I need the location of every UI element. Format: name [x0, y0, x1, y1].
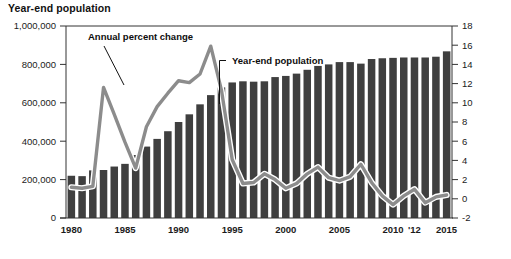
- annotation-label-annual-percent-change: Annual percent change: [88, 31, 193, 42]
- bar-1981: [78, 176, 86, 218]
- bar-1990: [175, 122, 183, 218]
- y-tick-label-left: 400,000: [22, 136, 56, 147]
- y-tick-label-left: 200,000: [22, 174, 56, 185]
- y-tick-label-right: 16: [462, 40, 473, 51]
- bar-2006: [346, 62, 354, 218]
- bar-1991: [186, 114, 194, 218]
- y-tick-label-left: 0: [51, 212, 56, 223]
- bar-1992: [196, 104, 204, 218]
- bar-2001: [293, 74, 301, 218]
- bar-2002: [304, 70, 312, 218]
- bar-1996: [239, 81, 247, 218]
- chart-container: Year-end population 0200,000400,000600,0…: [0, 0, 511, 259]
- x-tick-label-1980: 1980: [61, 224, 82, 235]
- y-tick-label-right: 4: [462, 155, 467, 166]
- y-tick-label-right: 2: [462, 174, 467, 185]
- x-tick-label-2000: 2000: [275, 224, 296, 235]
- x-tick-label-2005: 2005: [329, 224, 351, 235]
- y-tick-label-right: 8: [462, 116, 467, 127]
- y-tick-label-right: 10: [462, 97, 473, 108]
- bar-1983: [100, 170, 108, 218]
- bar-2004: [325, 64, 333, 218]
- bar-1987: [143, 147, 151, 218]
- y-tick-label-right: 0: [462, 193, 467, 204]
- x-tick-label-1985: 1985: [114, 224, 136, 235]
- x-tick-label-'12: '12: [408, 224, 421, 235]
- x-tick-label-1995: 1995: [222, 224, 244, 235]
- bar-1999: [271, 77, 279, 218]
- y-tick-label-right: 14: [462, 59, 473, 70]
- x-tick-label-2010: 2010: [382, 224, 403, 235]
- bar-1998: [261, 81, 269, 218]
- bar-1984: [111, 167, 119, 218]
- y-tick-label-left: 1,000,000: [14, 20, 56, 31]
- bar-1997: [250, 82, 258, 218]
- bar-2005: [336, 62, 344, 218]
- y-tick-label-right: 12: [462, 78, 473, 89]
- bar-1989: [164, 131, 172, 218]
- bar-1985: [121, 164, 129, 218]
- annotation-leader-annual-percent-change: [104, 46, 124, 85]
- y-tick-label-right: 18: [462, 20, 473, 31]
- bar-2003: [314, 66, 322, 218]
- chart-canvas: 0200,000400,000600,000800,0001,000,000-2…: [0, 0, 511, 259]
- bar-2000: [282, 76, 290, 218]
- bar-1980: [68, 176, 76, 218]
- bar-2013: [421, 57, 429, 218]
- y-tick-label-left: 800,000: [22, 59, 56, 70]
- annotation-label-year-end-population: Year-end population: [232, 55, 324, 66]
- x-tick-label-2015: 2015: [436, 224, 458, 235]
- y-tick-label-right: 6: [462, 136, 467, 147]
- y-tick-label-right: -2: [462, 212, 470, 223]
- bar-2007: [357, 64, 365, 218]
- x-tick-label-1990: 1990: [168, 224, 189, 235]
- bar-1988: [153, 139, 161, 218]
- bar-2010: [389, 58, 397, 218]
- bar-2008: [368, 59, 376, 218]
- bar-1993: [207, 95, 215, 218]
- y-tick-label-left: 600,000: [22, 97, 56, 108]
